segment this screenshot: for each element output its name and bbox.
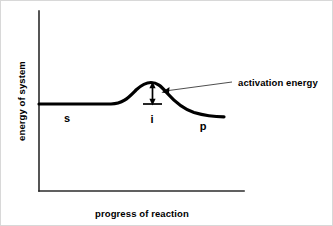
y-axis-label: energy of system bbox=[16, 61, 27, 141]
activation-energy-leader-line bbox=[165, 82, 232, 91]
start-label: s bbox=[64, 112, 70, 124]
figure-container: s i p activation energy energy of system… bbox=[0, 0, 333, 226]
energy-profile-diagram: s i p activation energy energy of system… bbox=[1, 1, 333, 226]
activation-energy-label: activation energy bbox=[238, 77, 318, 88]
product-label: p bbox=[200, 120, 207, 132]
intermediate-label: i bbox=[150, 113, 153, 125]
x-axis-label: progress of reaction bbox=[95, 208, 189, 219]
